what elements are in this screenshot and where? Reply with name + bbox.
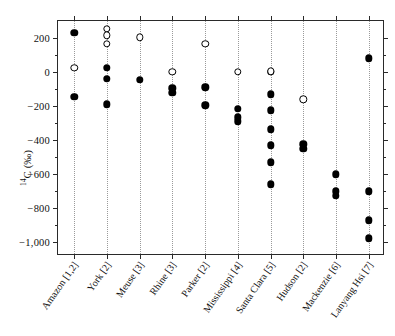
- x-axis-label: Hudson [2]: [274, 260, 309, 303]
- x-axis-tick: [205, 254, 206, 259]
- data-point: [201, 40, 208, 47]
- data-point: [71, 64, 78, 71]
- data-point: [201, 102, 208, 109]
- y-axis-minor-tick: [55, 225, 58, 226]
- data-point: [267, 159, 274, 166]
- data-point: [136, 33, 143, 40]
- x-axis-label: Meuse [3]: [113, 260, 145, 300]
- y-axis-minor-tick: [383, 55, 386, 56]
- y-axis-minor-tick: [383, 191, 386, 192]
- y-axis-minor-tick: [55, 157, 58, 158]
- data-point: [169, 68, 176, 75]
- category-gridline: [238, 21, 239, 254]
- x-axis-tick: [107, 254, 108, 259]
- data-point: [103, 64, 110, 71]
- y-axis-tick-label: −800: [28, 203, 50, 214]
- y-axis-tick: [383, 208, 388, 209]
- category-gridline: [107, 21, 108, 254]
- x-axis-tick: [172, 16, 173, 21]
- x-axis-tick: [271, 254, 272, 259]
- data-point: [332, 171, 339, 178]
- category-gridline: [140, 21, 141, 254]
- y-axis-tick: [53, 72, 58, 73]
- plot-area: 2000−200−400−600−800−1,000: [57, 20, 384, 255]
- y-axis-tick: [53, 242, 58, 243]
- x-axis-label: Parker [2]: [179, 260, 211, 299]
- data-point: [300, 145, 307, 152]
- data-point: [267, 181, 274, 188]
- y-axis-tick: [383, 242, 388, 243]
- data-point: [103, 101, 110, 108]
- y-axis-tick: [383, 38, 388, 39]
- y-axis-tick: [53, 174, 58, 175]
- x-axis-tick: [303, 16, 304, 21]
- data-point: [365, 234, 372, 241]
- data-point: [234, 68, 241, 75]
- data-point: [71, 93, 78, 100]
- data-point: [136, 76, 143, 83]
- data-point: [201, 84, 208, 91]
- data-point: [103, 32, 110, 39]
- category-gridline: [303, 21, 304, 254]
- x-axis-tick: [107, 16, 108, 21]
- x-axis-tick: [369, 16, 370, 21]
- y-axis-tick: [383, 106, 388, 107]
- data-point: [234, 118, 241, 125]
- data-point: [267, 91, 274, 98]
- x-axis-tick: [74, 254, 75, 259]
- x-axis-tick: [336, 16, 337, 21]
- x-axis-label: Rhine [3]: [148, 260, 179, 297]
- x-axis-tick: [336, 254, 337, 259]
- y-axis-minor-tick: [55, 123, 58, 124]
- x-axis-tick: [271, 16, 272, 21]
- category-gridline: [271, 21, 272, 254]
- data-point: [300, 96, 307, 103]
- x-axis-tick: [74, 16, 75, 21]
- y-axis-tick: [53, 140, 58, 141]
- y-axis-minor-tick: [55, 191, 58, 192]
- y-axis-minor-tick: [383, 225, 386, 226]
- data-point: [267, 125, 274, 132]
- y-axis-tick: [383, 72, 388, 73]
- x-axis-tick: [172, 254, 173, 259]
- data-point: [169, 89, 176, 96]
- y-axis-tick-label: −600: [28, 169, 50, 180]
- y-axis-tick: [53, 38, 58, 39]
- data-point: [234, 105, 241, 112]
- y-axis-tick: [383, 174, 388, 175]
- x-axis-tick: [238, 254, 239, 259]
- y-axis-minor-tick: [55, 89, 58, 90]
- data-point: [103, 40, 110, 47]
- y-axis-tick-label: −400: [28, 135, 50, 146]
- y-axis-minor-tick: [383, 89, 386, 90]
- data-point: [332, 192, 339, 199]
- y-axis-tick-label: 0: [45, 67, 50, 78]
- x-axis-tick: [140, 254, 141, 259]
- category-gridline: [172, 21, 173, 254]
- x-axis-tick: [369, 254, 370, 259]
- data-point: [365, 217, 372, 224]
- x-axis-tick: [205, 16, 206, 21]
- x-axis-tick: [303, 254, 304, 259]
- data-point: [71, 29, 78, 36]
- data-point: [103, 75, 110, 82]
- x-axis-tick: [238, 16, 239, 21]
- y-axis-minor-tick: [383, 123, 386, 124]
- y-axis-minor-tick: [55, 55, 58, 56]
- y-axis-tick-label: −1,000: [19, 237, 50, 248]
- figure: 14C (‰) 2000−200−400−600−800−1,000 Amazo…: [0, 0, 395, 336]
- data-point: [267, 107, 274, 114]
- y-axis-tick: [53, 208, 58, 209]
- x-axis-label: York [2]: [85, 260, 113, 294]
- y-axis-tick-label: 200: [34, 33, 50, 44]
- y-axis-tick: [53, 106, 58, 107]
- category-gridline: [74, 21, 75, 254]
- x-axis-tick: [140, 16, 141, 21]
- x-axis-label: Amazon [1,2]: [40, 260, 81, 312]
- y-axis-minor-tick: [383, 157, 386, 158]
- data-point: [267, 142, 274, 149]
- data-point: [365, 55, 372, 62]
- data-point: [365, 188, 372, 195]
- y-axis-tick: [383, 140, 388, 141]
- category-gridline: [336, 21, 337, 254]
